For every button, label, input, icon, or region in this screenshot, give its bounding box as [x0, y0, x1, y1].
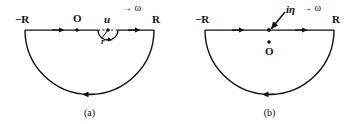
origin-dot-a — [75, 28, 79, 32]
panel-b: −R iη O → ω R (b) — [180, 0, 359, 124]
panel-a: −R O u r → ω R (a) — [0, 0, 179, 124]
label-radius-a: r — [101, 37, 105, 46]
label-left-endpoint-a: −R — [15, 14, 29, 25]
contour-figure: −R O u r → ω R (a) — [0, 0, 359, 124]
label-origin-a: O — [73, 13, 82, 24]
label-pole-a: u — [104, 14, 110, 25]
origin-dot-b — [267, 40, 271, 44]
caption-b: (b) — [180, 107, 359, 118]
label-direction-omega-b: → ω — [302, 3, 321, 13]
label-pole-b: iη — [286, 4, 295, 15]
label-origin-b: O — [265, 46, 274, 57]
large-arc-a — [25, 30, 154, 95]
large-arc-b — [205, 30, 334, 95]
label-left-endpoint-b: −R — [195, 14, 209, 25]
pole-dot-b — [267, 28, 271, 32]
caption-a: (a) — [0, 107, 179, 118]
pole-dot-a — [106, 28, 110, 32]
label-right-endpoint-b: R — [332, 14, 340, 25]
pole-annotation-arrow-b — [272, 12, 286, 29]
label-direction-omega-a: → ω — [122, 3, 141, 13]
label-right-endpoint-a: R — [152, 14, 160, 25]
